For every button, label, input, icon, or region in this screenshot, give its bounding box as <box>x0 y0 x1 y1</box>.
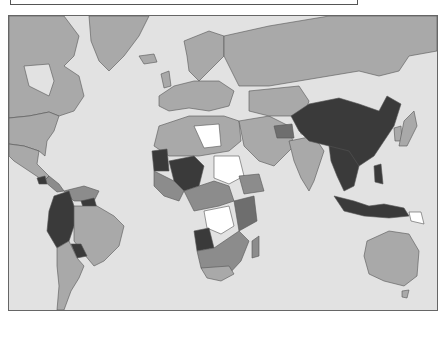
world-map <box>8 15 438 311</box>
region-mauritania <box>152 149 169 171</box>
map-canvas <box>9 16 437 310</box>
top-panel-edge <box>10 0 358 5</box>
region-afghanistan <box>274 124 294 138</box>
